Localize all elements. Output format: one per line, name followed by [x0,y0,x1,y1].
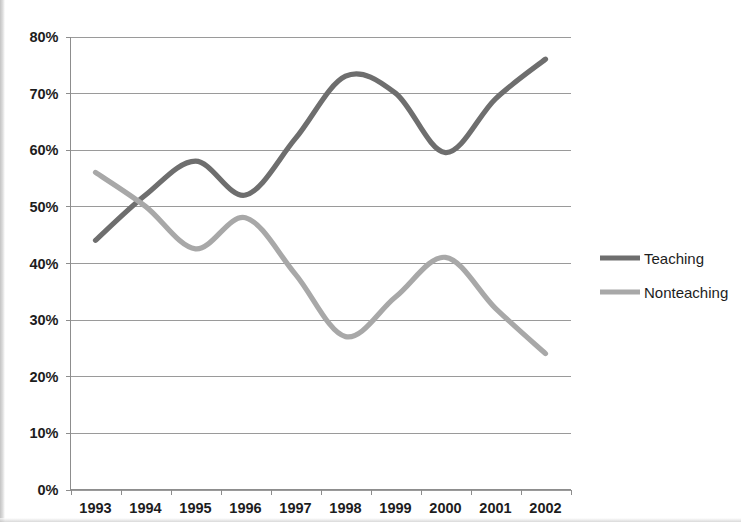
x-axis-label-2002: 2002 [529,500,561,516]
line-chart-figure: 0%10%20%30%40%50%60%70%80% 1993199419951… [0,0,741,522]
x-axis-label-1996: 1996 [229,500,261,516]
y-axis-label-70: 70% [29,86,58,102]
x-axis-label-1998: 1998 [329,500,361,516]
y-axis-label-40: 40% [29,256,58,272]
chart-legend: TeachingNonteaching [600,250,728,301]
chart-canvas: 0%10%20%30%40%50%60%70%80% 1993199419951… [0,0,741,522]
series-line-teaching [96,59,546,240]
y-axis-label-10: 10% [29,425,58,441]
y-axis-label-60: 60% [29,142,58,158]
y-axis-label-30: 30% [29,312,58,328]
x-axis-label-1993: 1993 [79,500,111,516]
x-axis-label-1999: 1999 [379,500,411,516]
x-axis-label-2001: 2001 [479,500,511,516]
y-axis-label-20: 20% [29,369,58,385]
y-axis-label-80: 80% [29,29,58,45]
legend-label-teaching: Teaching [644,250,704,267]
x-axis-label-2000: 2000 [429,500,461,516]
x-axis-label-1995: 1995 [179,500,211,516]
x-axis-tick-labels: 1993199419951996199719981999200020012002 [79,500,561,516]
legend-label-nonteaching: Nonteaching [644,284,728,301]
y-axis-tick-labels: 0%10%20%30%40%50%60%70%80% [29,29,58,498]
x-axis-label-1994: 1994 [129,500,161,516]
x-axis-label-1997: 1997 [279,500,311,516]
y-axis-label-50: 50% [29,199,58,215]
y-axis-label-0: 0% [38,482,59,498]
